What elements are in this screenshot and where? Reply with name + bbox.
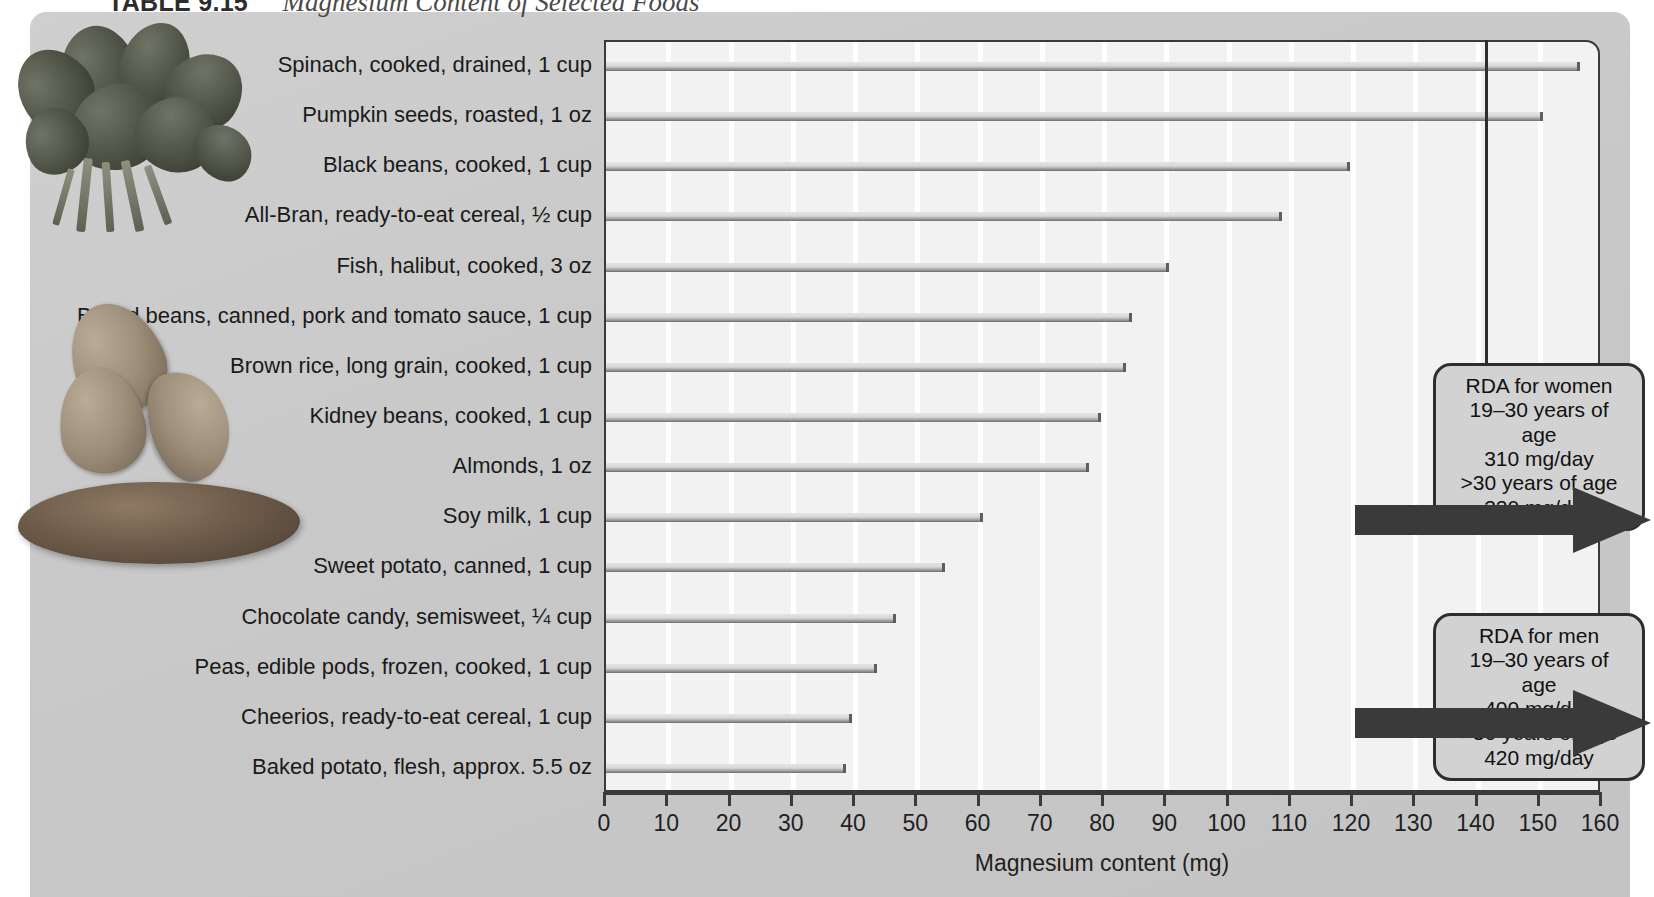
figure-title: TABLE 9.15 Magnesium Content of Selected… — [108, 0, 699, 17]
almonds-photo — [55, 300, 265, 485]
table-number: TABLE 9.15 — [108, 0, 248, 16]
x-tick-120 — [1350, 792, 1353, 806]
x-tick-140 — [1475, 792, 1478, 806]
x-tick-label-70: 70 — [1027, 810, 1053, 837]
bar — [606, 263, 1169, 272]
x-axis-title: Magnesium content (mg) — [604, 850, 1600, 877]
figure-root: TABLE 9.15 Magnesium Content of Selected… — [0, 0, 1654, 897]
x-tick-label-150: 150 — [1519, 810, 1557, 837]
category-label: Sweet potato, canned, 1 cup — [313, 553, 592, 579]
sweet-potato-photo — [18, 468, 303, 578]
rda-men-arrow — [1355, 690, 1654, 762]
category-label: Peas, edible pods, frozen, cooked, 1 cup — [195, 654, 592, 680]
category-label: Soy milk, 1 cup — [443, 503, 592, 529]
rda-men-line1: RDA for men — [1450, 624, 1628, 648]
x-tick-20 — [728, 792, 731, 806]
bar — [606, 363, 1126, 372]
x-tick-label-130: 130 — [1394, 810, 1432, 837]
category-label: Kidney beans, cooked, 1 cup — [309, 403, 592, 429]
bar — [606, 313, 1132, 322]
x-tick-label-80: 80 — [1089, 810, 1115, 837]
bar-row — [606, 313, 1600, 322]
x-tick-label-40: 40 — [840, 810, 866, 837]
bar — [606, 112, 1543, 121]
x-tick-50 — [914, 792, 917, 806]
category-label: Black beans, cooked, 1 cup — [323, 152, 592, 178]
bar-row — [606, 162, 1600, 171]
table-caption: Magnesium Content of Selected Foods — [283, 0, 700, 17]
bar-row — [606, 62, 1600, 71]
x-tick-130 — [1412, 792, 1415, 806]
category-label: Fish, halibut, cooked, 3 oz — [336, 253, 592, 279]
rda-women-line1: RDA for women — [1450, 374, 1628, 398]
bar-row — [606, 263, 1600, 272]
x-tick-160 — [1599, 792, 1602, 806]
x-tick-label-0: 0 — [598, 810, 611, 837]
rda-women-line2: 19–30 years of age — [1450, 398, 1628, 447]
x-tick-label-90: 90 — [1151, 810, 1177, 837]
category-label: Almonds, 1 oz — [453, 453, 592, 479]
bar — [606, 563, 945, 572]
x-tick-90 — [1163, 792, 1166, 806]
category-label: Chocolate candy, semisweet, ¼ cup — [241, 604, 592, 630]
bar — [606, 463, 1089, 472]
category-label: Cheerios, ready-to-eat cereal, 1 cup — [241, 704, 592, 730]
x-tick-label-110: 110 — [1270, 810, 1307, 837]
x-tick-label-160: 160 — [1581, 810, 1619, 837]
x-tick-70 — [1039, 792, 1042, 806]
x-tick-40 — [852, 792, 855, 806]
category-label: Pumpkin seeds, roasted, 1 oz — [302, 102, 592, 128]
category-label: Spinach, cooked, drained, 1 cup — [278, 52, 592, 78]
rda-women-stem — [1485, 40, 1488, 365]
x-tick-label-120: 120 — [1332, 810, 1370, 837]
x-tick-label-100: 100 — [1207, 810, 1245, 837]
x-tick-label-50: 50 — [902, 810, 928, 837]
rda-women-line3: 310 mg/day — [1450, 447, 1628, 471]
x-tick-30 — [790, 792, 793, 806]
bar — [606, 714, 852, 723]
spinach-photo — [8, 22, 273, 237]
x-tick-label-60: 60 — [965, 810, 991, 837]
bar-row — [606, 212, 1600, 221]
bar — [606, 413, 1101, 422]
category-label: Brown rice, long grain, cooked, 1 cup — [230, 353, 592, 379]
bar — [606, 764, 846, 773]
x-tick-80 — [1101, 792, 1104, 806]
bar-row — [606, 563, 1600, 572]
x-tick-10 — [665, 792, 668, 806]
x-tick-label-20: 20 — [716, 810, 742, 837]
bar-row — [606, 112, 1600, 121]
x-tick-150 — [1537, 792, 1540, 806]
x-tick-100 — [1226, 792, 1229, 806]
rda-women-arrow — [1355, 487, 1654, 559]
x-tick-0 — [603, 792, 606, 806]
category-label: All-Bran, ready-to-eat cereal, ½ cup — [245, 202, 592, 228]
bar — [606, 62, 1580, 71]
bar — [606, 513, 983, 522]
x-tick-110 — [1288, 792, 1291, 806]
bar — [606, 664, 877, 673]
x-tick-60 — [977, 792, 980, 806]
x-tick-label-140: 140 — [1456, 810, 1494, 837]
bar — [606, 614, 896, 623]
x-tick-label-10: 10 — [653, 810, 679, 837]
category-label: Baked potato, flesh, approx. 5.5 oz — [252, 754, 592, 780]
bar — [606, 162, 1350, 171]
bar — [606, 212, 1282, 221]
x-tick-label-30: 30 — [778, 810, 804, 837]
